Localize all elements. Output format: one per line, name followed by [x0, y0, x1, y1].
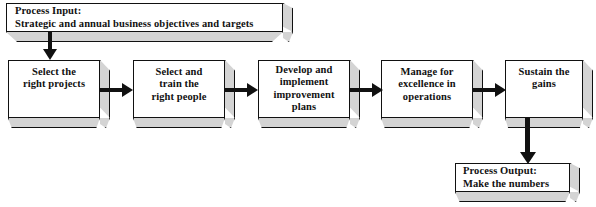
process-output-bottom-face: [455, 192, 570, 202]
process-step-2-line-3: right people: [151, 91, 206, 103]
connector-step-4-to-step-5: [473, 88, 495, 92]
connector-step-2-to-step-3: [225, 88, 247, 92]
process-step-5-bottom-face: [505, 118, 583, 128]
process-step-2-line-1: Select and: [151, 66, 206, 78]
process-input-right-face: [283, 3, 293, 32]
process-step-4-line-1: Manage for: [398, 66, 456, 78]
process-input-description: Strategic and annual business objectives…: [15, 18, 254, 30]
process-input-front-face: Process Input: Strategic and annual busi…: [6, 3, 283, 32]
process-step-3-line-1: Develop and: [274, 64, 335, 76]
process-output-front-face: Process Output: Make the numbers: [455, 163, 570, 192]
process-step-2: Select and train the right people: [133, 60, 225, 118]
process-output-corner-face: [570, 192, 580, 202]
process-step-3-line-4: plans: [274, 101, 335, 113]
process-step-4-line-3: operations: [398, 91, 456, 103]
process-step-3-line-3: improvement: [274, 89, 335, 101]
process-step-3-line-2: implement: [274, 76, 335, 88]
connector-step-1-to-step-2: [100, 88, 122, 92]
process-step-4-bottom-face: [381, 118, 473, 128]
process-step-1-front-face: Select the right projects: [8, 60, 100, 118]
process-step-5-corner-face: [583, 118, 593, 128]
process-step-3-bottom-face: [258, 118, 350, 128]
process-step-1-bottom-face: [8, 118, 100, 128]
process-step-2-corner-face: [225, 118, 235, 128]
process-step-5-line-2: gains: [519, 78, 570, 90]
process-output-title: Process Output:: [463, 165, 549, 177]
process-step-1-line-1: Select the: [23, 66, 85, 78]
process-step-1-line-2: right projects: [23, 78, 85, 90]
process-step-5: Sustain the gains: [505, 60, 583, 118]
process-output-right-face: [570, 163, 580, 192]
process-step-5-right-face: [583, 60, 593, 118]
process-step-5-line-1: Sustain the: [519, 66, 570, 78]
process-step-3: Develop and implement improvement plans: [258, 60, 350, 118]
process-step-5-front-face: Sustain the gains: [505, 60, 583, 118]
process-input-corner-face: [283, 32, 293, 42]
connector-step-5-to-output: [525, 118, 530, 152]
flowchart-diagram: Process Input: Strategic and annual busi…: [0, 0, 596, 207]
process-step-1: Select the right projects: [8, 60, 100, 118]
process-input-node: Process Input: Strategic and annual busi…: [6, 3, 283, 32]
process-step-2-bottom-face: [133, 118, 225, 128]
process-step-4-front-face: Manage for excellence in operations: [381, 60, 473, 118]
process-step-3-front-face: Develop and implement improvement plans: [258, 60, 350, 118]
process-step-4-corner-face: [473, 118, 483, 128]
process-output-node: Process Output: Make the numbers: [455, 163, 570, 192]
process-output-description: Make the numbers: [463, 178, 549, 190]
process-step-4-line-2: excellence in: [398, 78, 456, 90]
process-step-4: Manage for excellence in operations: [381, 60, 473, 118]
process-step-3-corner-face: [350, 118, 360, 128]
process-step-2-line-2: train the: [151, 78, 206, 90]
process-step-1-corner-face: [100, 118, 110, 128]
connector-input-to-step-1: [48, 32, 52, 49]
connector-step-3-to-step-4: [350, 88, 372, 92]
process-input-title: Process Input:: [15, 5, 254, 17]
process-step-2-front-face: Select and train the right people: [133, 60, 225, 118]
